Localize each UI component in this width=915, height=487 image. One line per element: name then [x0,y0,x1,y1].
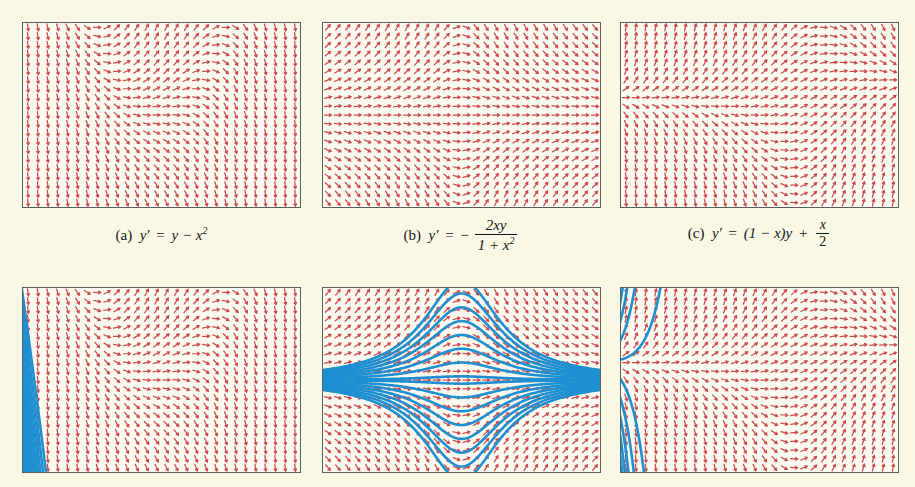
caption-c-numerator: x [816,218,829,233]
caption-c-label: (c) [688,225,705,241]
caption-c-equals: = [726,225,740,241]
panel-f-solution-curves [620,287,899,473]
caption-b: (b) y′ = − 2xy 1 + x2 [322,219,601,254]
figure-direction-fields: (a) y′ = y − x2 (b) y′ = − 2xy 1 + x2 (c… [0,0,915,487]
caption-c-lhs: y′ [712,225,722,241]
panel-d-solution-curves [22,287,301,473]
caption-a-exponent: 2 [203,225,208,236]
panel-e-solution-curves [322,287,601,473]
panel-a-direction-field [22,22,301,208]
panel-c-direction-field [620,22,899,208]
caption-c-fraction: x 2 [816,218,829,249]
caption-c: (c) y′ = (1 − x)y + x 2 [620,219,899,250]
caption-a-lhs: y′ [140,227,150,243]
caption-a: (a) y′ = y − x2 [22,226,301,243]
caption-a-label: (a) [115,227,132,243]
caption-c-denominator: 2 [816,233,829,249]
caption-c-rhs-prefix: (1 − x)y [744,225,792,241]
caption-a-equals: = [153,227,167,243]
caption-a-rhs: y − x [172,227,203,243]
caption-b-denominator: 1 + x2 [475,234,518,254]
caption-b-label: (b) [404,227,422,243]
caption-b-fraction: 2xy 1 + x2 [475,218,518,253]
caption-b-equals: = [442,227,456,243]
caption-b-sign: − [460,227,468,243]
caption-b-numerator: 2xy [475,218,518,234]
panel-b-direction-field [322,22,601,208]
caption-c-plus: + [796,225,810,241]
caption-b-lhs: y′ [429,227,439,243]
